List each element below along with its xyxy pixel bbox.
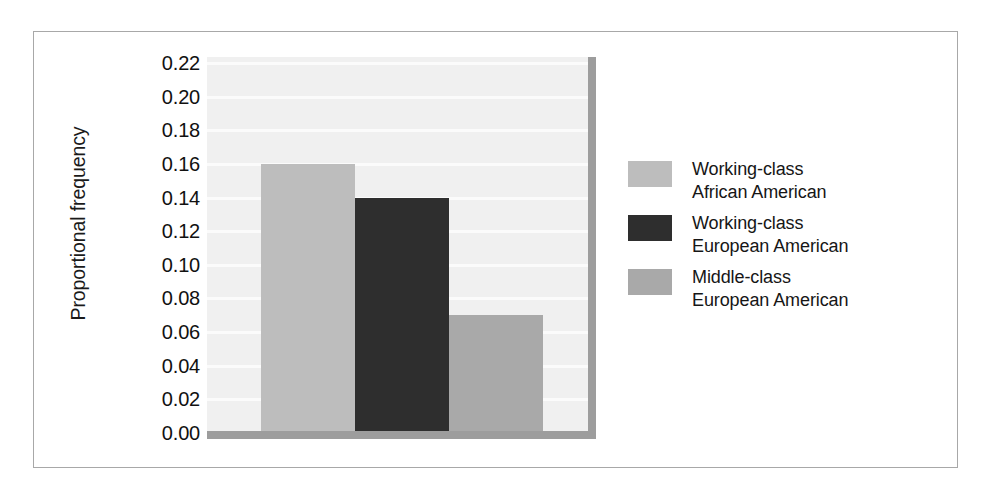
legend-item: Middle-class European American	[628, 266, 848, 311]
plot-area	[207, 57, 595, 436]
chart-legend: Working-class African AmericanWorking-cl…	[628, 158, 848, 320]
y-tick-label: 0.10	[136, 255, 200, 275]
legend-item: Working-class European American	[628, 212, 848, 257]
legend-swatch-icon	[628, 269, 672, 295]
y-tick-label: 0.12	[136, 221, 200, 241]
plot-baseline-shadow	[207, 431, 596, 439]
legend-label: Middle-class European American	[692, 266, 848, 311]
chart-figure: Proportional frequency 0.220.200.180.160…	[0, 0, 988, 494]
y-tick-label: 0.02	[136, 389, 200, 409]
gridline	[207, 129, 595, 132]
y-tick-label: 0.00	[136, 423, 200, 443]
bar-1	[261, 164, 355, 433]
y-tick-label: 0.04	[136, 356, 200, 376]
y-tick-label: 0.14	[136, 188, 200, 208]
y-tick-label: 0.06	[136, 322, 200, 342]
y-tick-label: 0.16	[136, 154, 200, 174]
y-axis-title: Proportional frequency	[67, 84, 90, 364]
plot-right-shadow	[588, 57, 596, 439]
y-tick-label: 0.18	[136, 120, 200, 140]
y-tick-label: 0.22	[136, 53, 200, 73]
bar-3	[449, 315, 543, 433]
y-tick-label: 0.08	[136, 288, 200, 308]
gridline	[207, 62, 595, 65]
legend-item: Working-class African American	[628, 158, 848, 203]
bar-2	[355, 198, 449, 433]
legend-swatch-icon	[628, 161, 672, 187]
legend-swatch-icon	[628, 215, 672, 241]
y-axis-tick-labels: 0.220.200.180.160.140.120.100.080.060.04…	[136, 0, 200, 494]
legend-label: Working-class African American	[692, 158, 826, 203]
y-tick-label: 0.20	[136, 87, 200, 107]
legend-label: Working-class European American	[692, 212, 848, 257]
gridline	[207, 96, 595, 99]
